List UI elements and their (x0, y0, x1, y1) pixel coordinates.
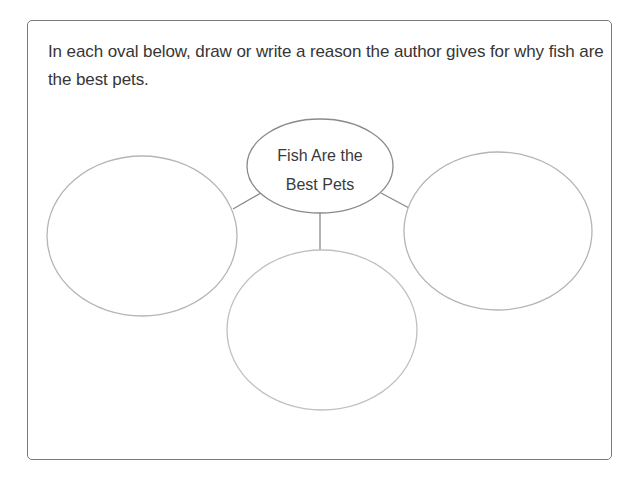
web-diagram (0, 0, 642, 484)
answer-oval-bottom[interactable] (227, 250, 417, 410)
center-label-line-1: Fish Are the (247, 141, 393, 170)
center-oval-label: Fish Are the Best Pets (247, 141, 393, 199)
center-label-line-2: Best Pets (247, 170, 393, 199)
answer-oval-right[interactable] (404, 152, 592, 310)
answer-oval-left[interactable] (47, 156, 237, 316)
